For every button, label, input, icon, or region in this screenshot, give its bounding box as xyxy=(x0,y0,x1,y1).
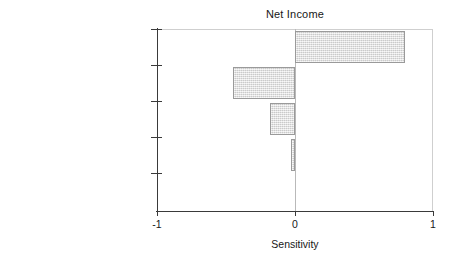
bar-capital-expenditure xyxy=(270,103,295,135)
bar-initial-unit-price xyxy=(295,31,405,63)
y-axis-tick xyxy=(151,173,162,174)
bar-fixed-operating-costs xyxy=(291,139,295,171)
y-axis-tick xyxy=(151,101,162,102)
x-axis-tick xyxy=(295,211,296,216)
x-axis-tick-label-zero: 0 xyxy=(292,218,298,230)
y-axis-tick xyxy=(151,29,162,30)
chart-title: Net Income xyxy=(157,8,433,20)
bar-initial-unit-cost xyxy=(233,67,295,99)
x-axis-tick xyxy=(433,211,434,216)
x-axis-title: Sensitivity xyxy=(157,238,433,250)
x-axis-tick-label-min: -1 xyxy=(152,218,161,230)
y-axis-line xyxy=(157,28,158,212)
sensitivity-tornado-chart: Net Income -1 0 1 Sensitivity Initial Un… xyxy=(0,0,454,265)
x-axis-tick-label-max: 1 xyxy=(430,218,436,230)
y-axis-tick xyxy=(151,137,162,138)
x-axis-tick xyxy=(157,211,158,216)
y-axis-tick xyxy=(151,65,162,66)
